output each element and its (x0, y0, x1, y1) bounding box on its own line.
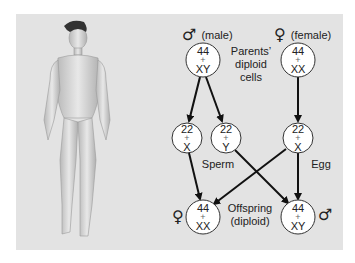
caption-line: cells (240, 71, 263, 83)
egg-label: Egg (311, 158, 331, 170)
cell-sex-chromosomes: XX (291, 63, 306, 75)
sperm-label: Sperm (202, 158, 234, 170)
human-male-figure (44, 21, 110, 236)
sperm-y-cell: 22 + Y (211, 123, 241, 153)
offspring-female: ♀ 44 + XX (172, 200, 220, 234)
arrow-male-to-sperm-x (189, 77, 200, 121)
egg-cell: 22 + X (283, 123, 313, 153)
offspring-male: 44 + XY ♂ (281, 200, 332, 234)
male-label: (male) (201, 29, 232, 41)
caption-line: Parents’ (231, 45, 271, 57)
caption-line: Offspring (228, 202, 272, 214)
parents-caption: Parents’ diploid cells (231, 45, 271, 83)
female-symbol-icon: ♀ (172, 207, 184, 226)
female-label: (female) (291, 29, 331, 41)
sex-determination-diagram: ♂ (male) 44 + XY Parents’ diploid cells … (0, 0, 355, 263)
cell-sex-chromosomes: XY (196, 63, 211, 75)
offspring-caption: Offspring (diploid) (228, 202, 272, 227)
female-symbol-icon: ♀ (274, 25, 286, 44)
sperm-x-cell: 22 + X (172, 123, 202, 153)
arrow-male-to-sperm-y (206, 77, 222, 121)
cell-sex-chromosomes: X (294, 141, 302, 153)
arrows (189, 77, 298, 204)
caption-line: (diploid) (230, 215, 269, 227)
cell-sex-chromosomes: XX (196, 220, 211, 232)
arrow-sperm-y-to-male-offspring (235, 150, 288, 203)
male-symbol-icon: ♂ (182, 25, 196, 44)
male-symbol-icon: ♂ (318, 205, 332, 224)
cell-sex-chromosomes: XY (291, 220, 306, 232)
arrow-sperm-x-to-female-offspring (189, 153, 200, 199)
cell-sex-chromosomes: Y (222, 141, 230, 153)
parent-female: ♀ (female) 44 + XX (274, 25, 331, 77)
parent-male: ♂ (male) 44 + XY (182, 25, 233, 77)
cell-sex-chromosomes: X (183, 141, 191, 153)
caption-line: diploid (235, 58, 267, 70)
